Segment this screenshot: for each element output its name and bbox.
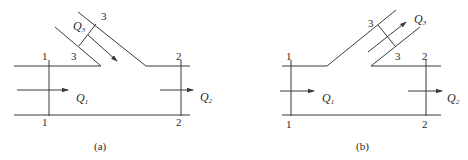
- section-1-top-label: 1: [286, 50, 292, 62]
- q2-label: Q2: [200, 90, 213, 105]
- section-1-top-label: 1: [42, 50, 48, 62]
- q3-arrow: [368, 22, 406, 52]
- section-2-bottom-label: 2: [176, 116, 182, 128]
- q1-label: Q1: [322, 91, 334, 106]
- q3-label: Q3: [414, 12, 427, 27]
- section-2-top-label: 2: [422, 50, 428, 62]
- q1-label: Q1: [76, 91, 88, 106]
- panel-b: 1 1 2 2 3 3 Q3 Q1 Q2 (b): [280, 10, 460, 153]
- pipe-junction-diagram: 1 1 2 2 3 3 Q3 Q1 Q2 (a) 1 1 2 2 3 3: [0, 0, 468, 160]
- panel-a: 1 1 2 2 3 3 Q3 Q1 Q2 (a): [14, 10, 213, 153]
- branch-outer-wall: [78, 12, 146, 66]
- section-3-inner-label: 3: [395, 50, 401, 62]
- section-1-bottom-label: 1: [286, 118, 292, 130]
- section-3-inner-label: 3: [71, 50, 77, 62]
- caption-a: (a): [94, 140, 107, 153]
- caption-b: (b): [356, 140, 369, 153]
- q3-label: Q3: [73, 19, 86, 34]
- section-1-bottom-label: 1: [42, 116, 48, 128]
- section-3-outer-label: 3: [101, 10, 107, 22]
- q2-label: Q2: [447, 91, 460, 106]
- section-3-line: [378, 25, 395, 46]
- section-2-top-label: 2: [176, 50, 182, 62]
- section-3-outer-label: 3: [368, 17, 374, 29]
- section-2-bottom-label: 2: [422, 118, 428, 130]
